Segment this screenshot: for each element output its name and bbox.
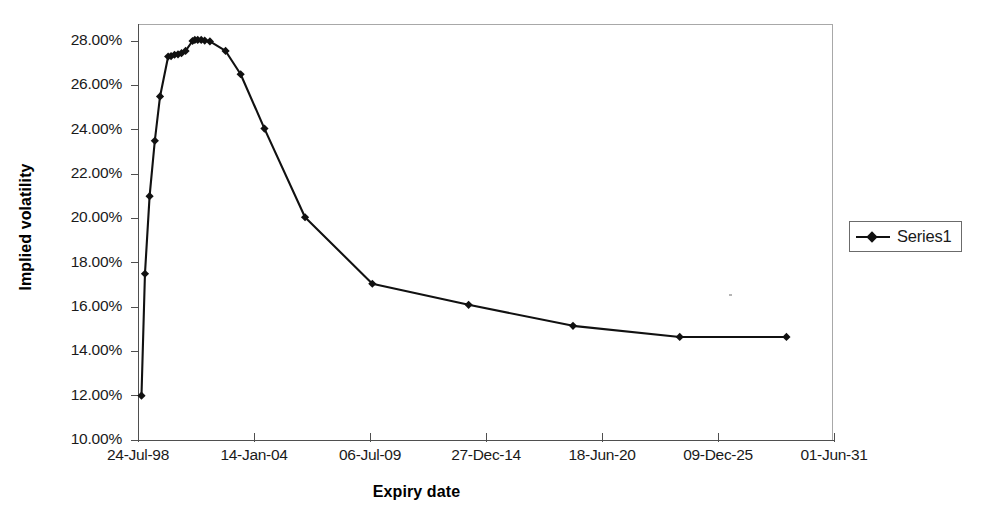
y-axis-tick [131, 85, 139, 86]
legend-marker-icon [856, 231, 890, 243]
x-axis-tick [602, 433, 603, 442]
y-axis-tick-label: 14.00% [0, 341, 122, 359]
y-axis-tick [131, 129, 139, 130]
y-axis-tick [131, 395, 139, 396]
y-axis-tick [131, 351, 139, 352]
x-axis-tick [138, 433, 139, 442]
x-axis-tick-label: 09-Dec-25 [683, 446, 753, 464]
y-axis-tick [131, 307, 139, 308]
x-axis-tick-label: 14-Jan-04 [220, 446, 287, 464]
x-axis-tick [834, 433, 835, 442]
legend-entry-series1: Series1 [897, 227, 952, 246]
y-axis-tick [131, 218, 139, 219]
y-axis-tick-label: 28.00% [0, 31, 122, 49]
implied-volatility-chart: 28.00%26.00%24.00%22.00%20.00%18.00%16.0… [0, 0, 997, 529]
y-axis-tick-label: 10.00% [0, 430, 122, 448]
y-axis-tick-label: 26.00% [0, 75, 122, 93]
x-axis-tick-label: 18-Jun-20 [568, 446, 635, 464]
y-axis-title: Implied volatility [17, 127, 35, 327]
y-axis-tick [131, 174, 139, 175]
x-axis-tick [254, 433, 255, 442]
x-axis-tick-label: 27-Dec-14 [451, 446, 521, 464]
x-axis-tick-label: 24-Jul-98 [107, 446, 169, 464]
x-axis-tick-label: 01-Jun-31 [800, 446, 867, 464]
x-axis-tick [370, 433, 371, 442]
y-axis-tick [131, 41, 139, 42]
legend[interactable]: Series1 [849, 221, 962, 252]
y-axis-tick-label: 12.00% [0, 386, 122, 404]
x-axis-tick [486, 433, 487, 442]
x-axis-tick [718, 433, 719, 442]
y-axis-line [138, 24, 139, 441]
scan-artifact [729, 294, 732, 296]
plot-area [138, 24, 833, 440]
y-axis-tick [131, 262, 139, 263]
x-axis-title: Expiry date [0, 483, 833, 501]
x-axis-tick-label: 06-Jul-09 [339, 446, 401, 464]
